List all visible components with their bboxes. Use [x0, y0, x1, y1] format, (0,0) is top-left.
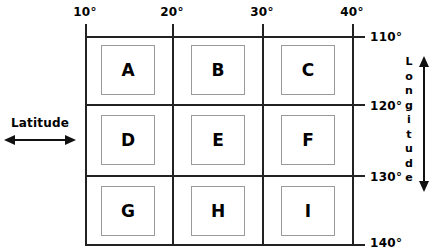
longitude-letter-t: t	[402, 128, 416, 143]
top-tick-label-40: 40°	[330, 5, 374, 19]
latitude-axis-group: Latitude	[2, 116, 78, 147]
vertical-gridline-30	[262, 24, 264, 246]
grid-cell-d[interactable]: D	[101, 115, 155, 165]
grid-cell-h[interactable]: H	[191, 186, 245, 236]
grid-cell-b[interactable]: B	[191, 45, 245, 95]
grid-cell-c[interactable]: C	[281, 45, 335, 95]
longitude-letter-d: d	[402, 157, 416, 172]
right-tick-label-120: 120°	[370, 99, 402, 113]
longitude-letter-g: g	[402, 99, 416, 114]
longitude-axis-group: L o n g i t u d e	[402, 55, 436, 193]
horizontal-gridline-130	[85, 175, 365, 177]
longitude-letter-e: e	[402, 171, 416, 186]
longitude-letter-o: o	[402, 70, 416, 85]
grid-cell-g[interactable]: G	[101, 186, 155, 236]
latitude-axis-label: Latitude	[2, 116, 78, 130]
grid-cell-a[interactable]: A	[101, 45, 155, 95]
horizontal-gridline-110	[85, 36, 365, 38]
right-tick-label-110: 110°	[370, 30, 402, 44]
horizontal-gridline-140	[85, 244, 365, 246]
longitude-letter-l: L	[402, 55, 416, 70]
grid-cell-f[interactable]: F	[281, 115, 335, 165]
grid-cell-i[interactable]: I	[281, 186, 335, 236]
grid-cell-e[interactable]: E	[191, 115, 245, 165]
longitude-axis-label: L o n g i t u d e	[402, 55, 416, 186]
horizontal-gridline-120	[85, 104, 365, 106]
top-tick-label-20: 20°	[150, 5, 194, 19]
longitude-letter-i: i	[402, 113, 416, 128]
right-tick-label-130: 130°	[370, 170, 402, 184]
vertical-gridline-20	[172, 24, 174, 246]
latitude-longitude-grid-diagram: 10° 20° 30° 40° 110° 120° 130° 140° A B …	[0, 0, 436, 252]
top-tick-label-30: 30°	[240, 5, 284, 19]
longitude-double-arrow-icon	[417, 55, 431, 193]
latitude-double-arrow-icon	[2, 133, 78, 147]
right-tick-label-140: 140°	[370, 236, 402, 250]
vertical-gridline-10	[85, 24, 87, 246]
top-tick-label-10: 10°	[63, 5, 107, 19]
longitude-letter-n: n	[402, 84, 416, 99]
vertical-gridline-40	[352, 24, 354, 246]
longitude-letter-u: u	[402, 142, 416, 157]
